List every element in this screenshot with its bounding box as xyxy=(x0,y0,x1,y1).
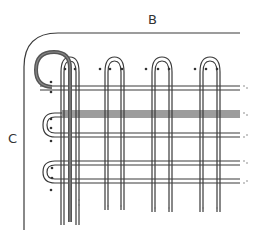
label-c: C xyxy=(8,132,17,145)
vertical-loops xyxy=(61,57,220,225)
dotted-ends xyxy=(78,85,247,208)
label-b: B xyxy=(148,13,157,26)
weave-diagram xyxy=(0,0,257,245)
frame-outline xyxy=(24,33,240,230)
horizontal-loop-row-2 xyxy=(43,161,240,183)
horizontal-loop-row-1 xyxy=(43,113,240,137)
